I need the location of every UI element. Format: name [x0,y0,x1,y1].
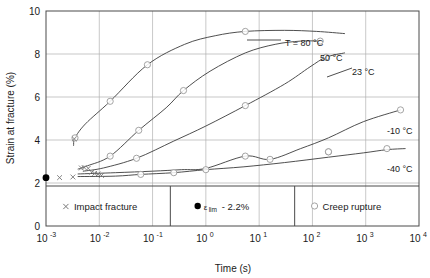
svg-text:10: 10 [196,233,208,244]
legend-item-3: Creep rupture [311,201,381,212]
creep-rupture-marker [144,62,150,68]
svg-text:10: 10 [409,233,421,244]
svg-text:3: 3 [370,231,374,238]
creep-rupture-marker [267,156,273,162]
svg-text:-3: -3 [50,231,56,238]
y-tick-6: 6 [34,92,40,103]
svg-text:10: 10 [143,233,155,244]
legend-item-2: εlim- 2.2% [194,201,249,213]
eps-lim-point [43,174,50,181]
legend-label: Creep rupture [323,201,382,212]
svg-text:10: 10 [303,233,315,244]
creep-rupture-marker [325,149,331,155]
legend-eps-subscript: lim [209,206,217,213]
series-label-4: -10 °C [387,126,413,136]
svg-text:-2: -2 [103,231,109,238]
creep-rupture-marker [180,87,186,93]
y-tick-0: 0 [34,221,40,232]
creep-rupture-marker [107,98,113,104]
svg-text:2: 2 [316,231,320,238]
series-label-5: -40 °C [387,164,413,174]
creep-rupture-marker [384,146,390,152]
legend-entries: Impact fractureεlim- 2.2%Creep rupture [63,201,381,213]
creep-rupture-marker [203,167,209,173]
creep-rupture-marker [138,171,144,177]
creep-rupture-marker [107,153,113,159]
svg-text:10: 10 [36,233,48,244]
creep-rupture-marker [242,103,248,109]
creep-rupture-marker [397,107,403,113]
circle-open-icon [311,203,317,209]
svg-text:4: 4 [423,231,427,238]
y-tick-10: 10 [29,6,41,17]
svg-text:10: 10 [250,233,262,244]
legend-eps-symbol: ε [204,203,208,212]
svg-text:10: 10 [90,233,102,244]
creep-rupture-marker [133,155,139,161]
y-tick-2: 2 [34,178,40,189]
svg-text:0: 0 [210,231,214,238]
svg-text:10: 10 [356,233,368,244]
y-tick-4: 4 [34,135,40,146]
legend-label: - 2.2% [222,201,250,212]
series-label-1: T = 80 °C [285,38,324,48]
creep-rupture-marker [171,170,177,176]
svg-text:1: 1 [263,231,267,238]
creep-rupture-marker [136,127,142,133]
filled-dot-icon [194,203,200,209]
svg-text:-1: -1 [157,231,163,238]
series-label-3: 23 °C [352,67,375,77]
chart-figure: T = 80 °C50 °C23 °C-10 °C-40 °C 10-310-2… [0,0,430,278]
creep-rupture-marker [242,153,248,159]
legend-item-1: Impact fracture [63,201,137,212]
legend-label: Impact fracture [74,201,137,212]
series-label-2: 50 °C [320,53,343,63]
x-axis-title: Time (s) [215,263,251,274]
creep-rupture-marker [242,28,248,34]
y-tick-8: 8 [34,49,40,60]
y-axis-title: Strain at fracture (%) [5,72,16,164]
